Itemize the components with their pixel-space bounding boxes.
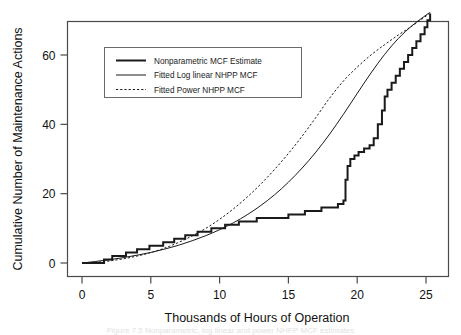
x-tick-label: 20	[351, 288, 365, 302]
x-tick-label: 0	[79, 288, 86, 302]
x-axis-title: Thousands of Hours of Operation	[165, 311, 350, 325]
y-axis-ticks: 0204060	[42, 49, 67, 271]
y-tick-label: 0	[49, 257, 56, 271]
figure-caption-sliver: Figure 7.5 Nonparametric, log linear and…	[0, 326, 461, 335]
legend-label-0: Nonparametric MCF Estimate	[154, 57, 262, 66]
mcf-chart: 0510152025 0204060 Thousands of Hours of…	[0, 0, 461, 335]
x-axis-ticks: 0510152025	[79, 277, 433, 302]
legend: Nonparametric MCF EstimateFitted Log lin…	[105, 48, 302, 98]
x-tick-label: 5	[147, 288, 154, 302]
figure-container: 0510152025 0204060 Thousands of Hours of…	[0, 0, 461, 335]
legend-label-2: Fitted Power NHPP MCF	[154, 86, 245, 95]
y-tick-label: 60	[42, 49, 56, 63]
x-tick-label: 10	[213, 288, 227, 302]
y-tick-label: 20	[42, 187, 56, 201]
x-tick-label: 25	[419, 288, 433, 302]
y-axis-title: Cumulative Number of Maintenance Actions	[11, 27, 25, 270]
x-tick-label: 15	[282, 288, 296, 302]
y-tick-label: 40	[42, 118, 56, 132]
legend-label-1: Fitted Log linear NHPP MCF	[154, 71, 258, 80]
